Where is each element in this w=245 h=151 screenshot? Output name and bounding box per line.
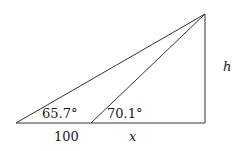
triangle-diagram: 65.7° 70.1° 100 x h [0,0,245,151]
diagram-canvas: 65.7° 70.1° 100 x h [0,0,245,151]
base-right-label: x [129,129,137,144]
angle-label-outer: 65.7° [42,106,77,121]
angle-label-inner: 70.1° [107,106,142,121]
height-label: h [223,59,231,74]
base-left-label: 100 [54,129,79,144]
